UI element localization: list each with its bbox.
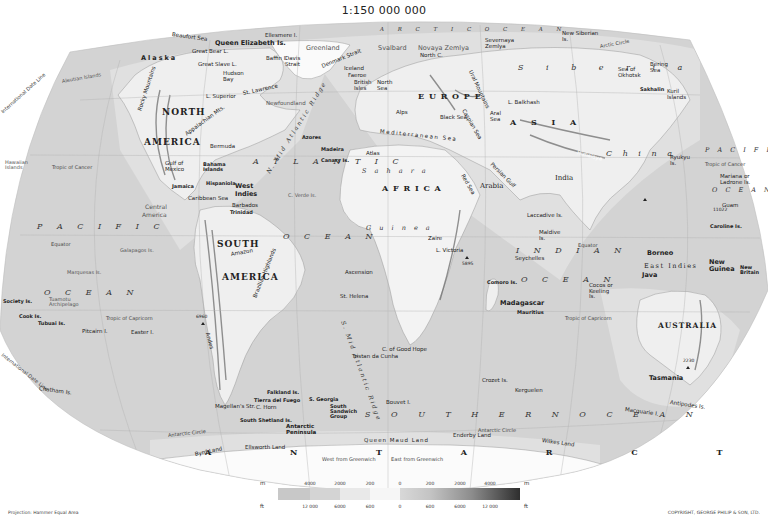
legend-unit-ft-left: ft — [260, 503, 264, 509]
label-caribbean-sea: Caribbean Sea — [188, 196, 228, 202]
label-british-isles: British Isles — [354, 80, 376, 91]
label-java: Java — [642, 272, 657, 279]
label-kerguelen: Kerguelen — [515, 388, 543, 394]
label-sakhalin: Sakhalin — [640, 87, 664, 92]
label-azores: Azores — [302, 135, 321, 140]
label-equator-east: Equator — [578, 243, 598, 248]
label-antarctica: A N T A R C T I C A — [205, 448, 768, 456]
label-tubuai-is: Tubuai Is. — [38, 321, 65, 326]
label-tropic-of-cancer-west: Tropic of Cancer — [52, 165, 92, 170]
label-central-america: Central — [145, 204, 167, 210]
label-faeroe: Faeroe — [348, 73, 366, 79]
copyright-note: COPYRIGHT, GEORGE PHILIP & SON, LTD. — [668, 510, 760, 515]
label-madeira: Madeira — [321, 147, 344, 152]
label-bouvet-i: Bouvet I. — [386, 400, 411, 406]
label-ascension: Ascension — [345, 270, 373, 276]
legend-ft-tick: 12 000 — [302, 504, 318, 509]
label-tuamotu-archipelago: Tuamotu Archipelago — [49, 297, 85, 307]
label-hawaiian-islands: Hawaiian Islands — [5, 160, 35, 170]
legend-depth-200 — [340, 488, 370, 500]
label-falkland-is: Falkland Is. — [267, 390, 299, 395]
label-great-slave-l: Great Slave L. — [198, 62, 237, 68]
label-india: India — [555, 175, 573, 182]
label-hispaniola: Hispaniola — [206, 181, 236, 186]
label-trinidad: Trinidad — [230, 210, 253, 215]
label-asia: A S I A — [510, 118, 582, 126]
label-aral-sea: Aral Sea — [490, 111, 502, 122]
label-mauritius: Mauritius — [517, 310, 544, 315]
label-central-america-2: America — [142, 212, 167, 218]
label-west-indies-2: Indies — [235, 191, 257, 198]
legend-ft-tick: 600 — [366, 504, 375, 509]
label-ellsworth-land: Ellsworth Land — [245, 445, 285, 451]
label-crozet-is: Crozet Is. — [482, 378, 508, 384]
label-magellans-str: Magellan's Str. — [215, 404, 255, 410]
label-c-of-good-hope: C. of Good Hope — [382, 347, 427, 353]
label-north-sea: North Sea — [377, 80, 391, 91]
label-indian-ocean: I N D I A N — [516, 247, 627, 255]
label-iceland: Iceland — [344, 66, 364, 72]
label-hudson-bay: Hudson Bay — [223, 71, 239, 82]
label-madagascar: Madagascar — [500, 300, 544, 307]
label-new-siberian-is: New Siberian Is. — [562, 31, 604, 42]
label-baffin-i: Baffin I. — [266, 56, 287, 62]
label-marquesas-is: Marquesas Is. — [67, 270, 101, 275]
label-maldive-is: Maldive Is. — [539, 230, 555, 241]
label-queen-maud-land: Queen Maud Land — [364, 438, 429, 444]
label-arabia: Arabia — [480, 183, 503, 190]
legend-m-tick: 2000 — [454, 481, 465, 486]
label-canary-is: Canary Is. — [321, 158, 349, 163]
label-west-indies: West — [235, 183, 253, 190]
label-sahara: S a h a r a — [362, 168, 429, 175]
label-laccadive-is: Laccadive Is. — [527, 213, 563, 219]
spot-height-kosciusko: 2230 — [683, 359, 694, 364]
label-society-is: Society Is. — [3, 299, 32, 304]
legend-m-tick: 2000 — [334, 481, 345, 486]
label-south-america: SOUTH — [217, 240, 259, 249]
label-s-georgia: S. Georgia — [309, 397, 338, 402]
label-antarctic-circle-east: Antarctic Circle — [478, 428, 516, 433]
label-novaya-zemlya: Novaya Zemlya — [418, 45, 469, 52]
label-cook-is: Cook Is. — [19, 314, 41, 319]
label-north-america-2: AMERICA — [144, 138, 201, 147]
legend-ft-tick: 600 — [426, 504, 435, 509]
label-newfoundland: Newfoundland — [266, 101, 306, 107]
label-south-shetland-is: South Shetland Is. — [240, 418, 292, 423]
label-atlantic-ocean-2: O C E A N — [283, 233, 378, 241]
label-africa: A F R I C A — [382, 184, 442, 192]
projection-note: Projection: Hammer Equal Area — [8, 510, 79, 515]
label-greenland: Greenland — [306, 45, 340, 52]
label-south-sandwich-group: South Sandwich Group — [330, 404, 360, 419]
label-svalbard: Svalbard — [378, 45, 407, 52]
legend-depth-2000 — [310, 488, 340, 500]
label-easter-i: Easter I. — [131, 330, 154, 336]
label-new-guinea: New Guinea — [709, 259, 739, 272]
label-pacific-ocean-east: P A C I F I C — [705, 147, 768, 154]
legend-color-bar — [278, 488, 520, 500]
label-tropic-of-capricorn-east: Tropic of Capricorn — [565, 316, 612, 321]
label-caroline-is: Caroline Is. — [710, 224, 742, 229]
label-davis-strait: Davis Strait — [285, 56, 303, 67]
label-east-indies: East Indies — [644, 263, 697, 270]
label-kuril-islands: Kuril Islands — [667, 89, 689, 100]
label-queen-elizabeth-is: Queen Elizabeth Is. — [215, 40, 286, 47]
label-europe: E U R O P E — [418, 92, 482, 100]
label-zaire: Zaire — [428, 236, 442, 242]
label-bahama-islands: Bahama Islands — [203, 162, 229, 172]
label-atlas: Atlas — [366, 151, 380, 157]
legend-depth-4000 — [278, 488, 310, 500]
label-great-bear-l: Great Bear L. — [192, 49, 228, 55]
label-tropic-of-capricorn-west: Tropic of Capricorn — [106, 316, 153, 321]
label-jamaica: Jamaica — [172, 184, 194, 189]
label-new-britain: New Britain — [740, 265, 766, 275]
label-tasmania: Tasmania — [649, 375, 683, 382]
label-alaska: Alaska — [141, 55, 177, 62]
legend-unit-m-right: m — [524, 480, 529, 486]
spot-height-kilimanjaro: 5895 — [462, 262, 473, 267]
label-cape-verde-is: C. Verde Is. — [288, 193, 316, 198]
elevation-legend: m ft m ft 4000 2000 200 0 200 2000 4000 … — [258, 479, 530, 515]
label-bermuda: Bermuda — [210, 144, 235, 150]
legend-m-tick: 200 — [426, 481, 435, 486]
label-east-from-greenwich: East from Greenwich — [391, 457, 443, 462]
label-comoro-is: Comoro Is. — [487, 280, 517, 285]
